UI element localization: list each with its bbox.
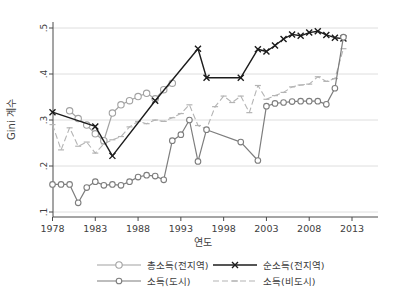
- series-순소득(전지역): [50, 28, 347, 159]
- y-tick-label: .2: [39, 162, 49, 171]
- legend: 총소득(전지역)순소득(전지역)소득(도시)소득(비도시): [97, 260, 324, 287]
- data-point-marker: [255, 158, 261, 164]
- data-point-marker: [109, 153, 115, 159]
- gini-coefficient-figure: .1.2.3.4.5197819831988199319982003200820…: [0, 0, 404, 306]
- legend-item-총소득(전지역): 총소득(전지역): [97, 260, 208, 271]
- data-point-marker: [116, 262, 122, 268]
- data-point-marker: [58, 182, 64, 188]
- data-point-marker: [118, 102, 124, 108]
- x-tick-label: 1998: [212, 223, 236, 234]
- y-tick-label: .3: [39, 116, 49, 125]
- data-point-marker: [272, 101, 278, 107]
- data-point-marker: [126, 97, 132, 103]
- legend-label: 총소득(전지역): [147, 260, 208, 271]
- y-axis-title: Gini 계수: [6, 99, 17, 140]
- data-point-marker: [281, 36, 287, 42]
- data-point-marker: [152, 173, 158, 179]
- data-point-marker: [75, 200, 81, 206]
- series-총소득(전지역): [66, 80, 175, 144]
- legend-label: 소득(도시): [147, 276, 190, 287]
- x-tick-label: 2008: [297, 223, 321, 234]
- data-point-marker: [264, 103, 270, 109]
- x-tick-label: 1993: [169, 223, 193, 234]
- x-tick-label: 1983: [83, 223, 107, 234]
- legend-label: 소득(비도시): [263, 276, 315, 287]
- legend-item-소득(도시): 소득(도시): [97, 276, 190, 287]
- legend-label: 순소득(전지역): [263, 260, 324, 271]
- data-point-marker: [272, 42, 278, 48]
- legend-item-순소득(전지역): 순소득(전지역): [213, 260, 324, 271]
- y-tick-label: .5: [39, 24, 49, 33]
- data-point-marker: [341, 34, 347, 40]
- data-point-marker: [101, 183, 107, 189]
- data-point-marker: [116, 278, 122, 284]
- legend-item-소득(비도시): 소득(비도시): [213, 276, 315, 287]
- data-point-marker: [66, 108, 72, 114]
- x-axis-title: 연도: [194, 237, 212, 248]
- data-point-marker: [332, 85, 338, 91]
- data-point-marker: [118, 183, 124, 189]
- data-point-marker: [178, 132, 184, 138]
- data-point-marker: [195, 159, 201, 165]
- data-point-marker: [67, 182, 73, 188]
- data-point-marker: [187, 117, 193, 123]
- y-tick-label: .1: [39, 208, 49, 217]
- data-point-marker: [135, 174, 141, 180]
- data-point-marker: [324, 102, 330, 108]
- x-tick-label: 1988: [126, 223, 150, 234]
- data-point-marker: [281, 100, 287, 106]
- data-point-marker: [315, 98, 321, 104]
- data-point-marker: [143, 90, 149, 96]
- data-point-marker: [135, 93, 141, 99]
- data-point-marker: [144, 172, 150, 178]
- x-tick-label: 2003: [254, 223, 278, 234]
- data-point-marker: [127, 179, 133, 185]
- data-point-marker: [92, 179, 98, 185]
- data-point-marker: [238, 139, 244, 145]
- gini-line-chart: .1.2.3.4.5197819831988199319982003200820…: [0, 0, 404, 306]
- data-point-marker: [170, 138, 176, 144]
- data-point-marker: [84, 185, 90, 191]
- data-point-marker: [161, 177, 167, 183]
- data-point-marker: [50, 182, 56, 188]
- data-point-marker: [92, 123, 98, 129]
- data-point-marker: [109, 110, 115, 116]
- x-tick-label: 1978: [40, 223, 64, 234]
- data-point-marker: [298, 98, 304, 104]
- data-point-marker: [204, 127, 210, 133]
- data-point-marker: [306, 98, 312, 104]
- y-tick-label: .4: [39, 69, 49, 78]
- data-point-marker: [289, 99, 295, 105]
- x-tick-label: 2013: [340, 223, 364, 234]
- data-point-marker: [110, 182, 116, 188]
